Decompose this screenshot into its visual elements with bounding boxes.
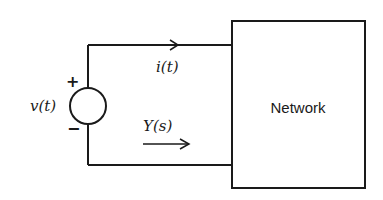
source-voltage-label: v(t) <box>30 97 56 115</box>
plus-sign: + <box>66 72 79 91</box>
current-label: i(t) <box>156 58 179 76</box>
admittance-label: Y(s) <box>143 117 172 135</box>
minus-sign: − <box>67 119 80 138</box>
network-label: Network <box>270 99 326 116</box>
circuit-diagram: v(t) + − i(t) Y(s) Network <box>0 0 383 200</box>
